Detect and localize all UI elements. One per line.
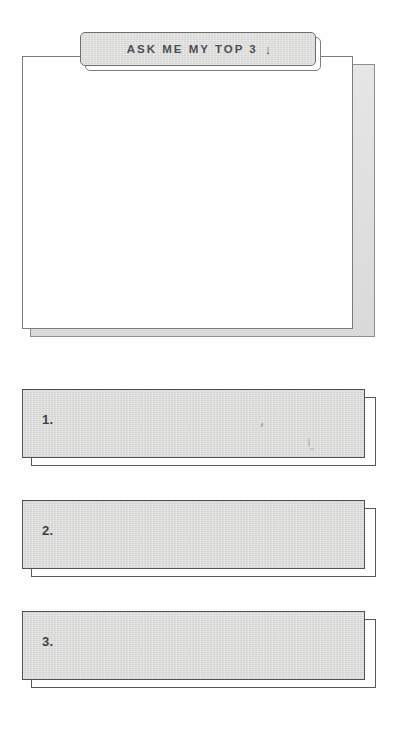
prompt-card-writing-area[interactable] — [22, 56, 353, 329]
answer-row-input[interactable]: 2. — [22, 500, 365, 569]
prompt-tab[interactable]: ASK ME MY TOP 3 ↓ — [80, 32, 316, 66]
answer-row: 1. — [0, 381, 393, 473]
answer-row-number: 1. — [42, 413, 364, 426]
answer-row-input[interactable]: 1. — [22, 389, 365, 458]
paper-speck — [308, 438, 310, 447]
answer-row-number: 2. — [42, 524, 364, 537]
paper-speck — [310, 448, 314, 450]
answer-row: 2. — [0, 492, 393, 584]
prompt-tab-label: ASK ME MY TOP 3 ↓ — [125, 43, 271, 56]
prompt-tab-text: ASK ME MY TOP 3 — [127, 43, 258, 55]
answer-row-input[interactable]: 3. — [22, 611, 365, 680]
arrow-down-icon: ↓ — [265, 43, 272, 56]
worksheet-page: ASK ME MY TOP 3 ↓ 1. 2. 3. — [0, 0, 393, 737]
answer-row-number: 3. — [42, 635, 364, 648]
answer-row: 3. — [0, 603, 393, 695]
prompt-card: ASK ME MY TOP 3 ↓ — [0, 0, 393, 360]
